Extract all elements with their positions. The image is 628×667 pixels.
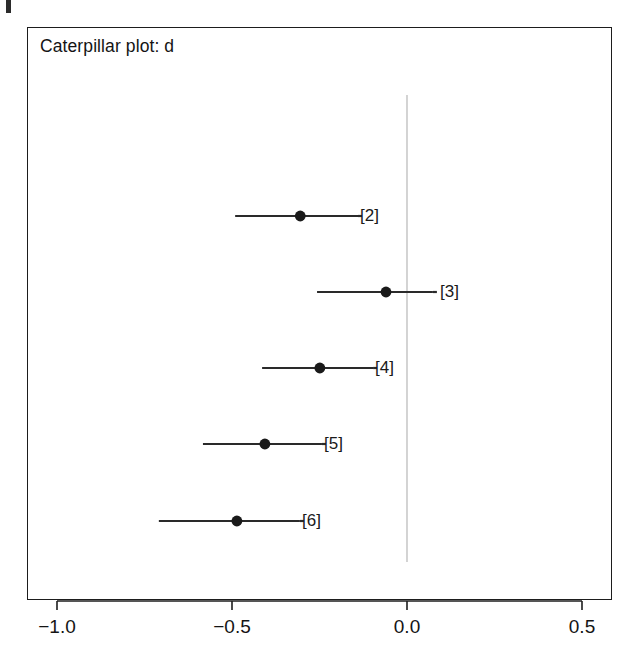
row-label-2: [2] [360,206,379,226]
x-tick-label-3: 0.5 [569,616,595,638]
row-label-3: [3] [440,282,459,302]
page-edge-mark-icon [6,0,11,13]
page-canvas: Caterpillar plot: d −1.0 −0.5 0.0 0.5 [2… [0,0,628,667]
x-axis [57,601,582,610]
row-label-4: [4] [375,358,394,378]
page-title: Caterpillar plot: d [40,36,174,57]
x-tick-label-2: 0.0 [394,616,420,638]
x-tick-label-1: −0.5 [213,616,251,638]
row-label-5: [5] [324,434,343,454]
x-tick-label-0: −1.0 [38,616,76,638]
row-label-6: [6] [302,511,321,531]
